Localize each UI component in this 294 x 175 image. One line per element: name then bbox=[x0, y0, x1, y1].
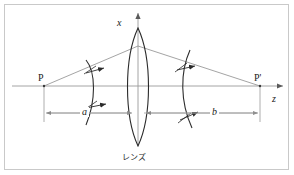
object-point-label: P bbox=[38, 73, 44, 83]
optical-diagram-figure: x z P P' a b レンズ bbox=[0, 0, 294, 175]
image-point-P-prime-marker bbox=[259, 85, 261, 87]
diagram-canvas bbox=[0, 0, 294, 175]
object-point-P-marker bbox=[43, 85, 45, 87]
ray-bundle-upper bbox=[44, 46, 260, 86]
lens-label: レンズ bbox=[122, 154, 146, 162]
z-axis-label: z bbox=[272, 94, 276, 104]
diverging-wavefront-propagation-arrows bbox=[84, 66, 106, 110]
image-point-label: P' bbox=[254, 73, 261, 83]
image-distance-label: b bbox=[210, 107, 219, 117]
object-distance-label: a bbox=[80, 107, 89, 117]
dimension-line-b bbox=[144, 86, 260, 122]
x-axis-label: x bbox=[117, 18, 121, 28]
